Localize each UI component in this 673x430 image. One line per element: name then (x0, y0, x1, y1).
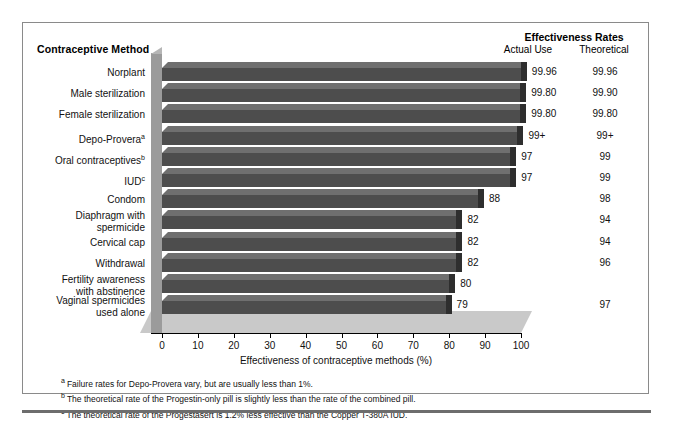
bar-chart-plot: Norplant99.9699.96Male sterilization99.8… (23, 23, 650, 395)
row-label: Condom (23, 194, 145, 206)
bar (162, 195, 478, 208)
bar-row: Diaphragm withspermicide8294 (23, 211, 650, 233)
bar-side-face (449, 274, 455, 293)
x-axis-tick (270, 333, 271, 338)
footnote: aFailure rates for Depo-Provera vary, bu… (61, 375, 621, 390)
bar-side-face (456, 253, 462, 272)
x-axis-tick (413, 333, 414, 338)
value-actual-use: 97 (521, 151, 567, 162)
footnotes: aFailure rates for Depo-Provera vary, bu… (61, 375, 621, 421)
x-axis-tick-label: 100 (506, 340, 536, 351)
value-actual-use: 97 (521, 172, 567, 183)
footnote: bThe theoretical rate of the Progestin-o… (61, 390, 621, 405)
bar-side-face (510, 147, 516, 166)
bar-side-face (520, 104, 526, 123)
bar-side-face (521, 62, 527, 81)
x-axis-tick (342, 333, 343, 338)
row-label: Diaphragm withspermicide (23, 210, 145, 233)
bar (162, 89, 520, 102)
value-actual-use: 99.80 (531, 87, 577, 98)
bar-row: Fertility awarenesswith abstinence80 (23, 275, 650, 297)
value-actual-use: 99.80 (531, 108, 577, 119)
bar-top-face (162, 253, 456, 259)
row-label: Oral contraceptivesb (23, 152, 145, 167)
bar-row: Condom8898 (23, 190, 650, 212)
x-axis-tick-label: 70 (398, 340, 428, 351)
row-label: Male sterilization (23, 88, 145, 100)
bar-side-face (478, 189, 484, 208)
value-actual-use: 82 (467, 214, 513, 225)
bar-top-face (162, 232, 456, 238)
x-axis-tick-label: 40 (291, 340, 321, 351)
bar-top-face (162, 210, 456, 216)
x-axis-tick-label: 80 (434, 340, 464, 351)
bar-row: Withdrawal8296 (23, 254, 650, 276)
x-axis-tick-label: 0 (147, 340, 177, 351)
row-label: Vaginal spermicidesused alone (23, 295, 145, 318)
row-label: Depo-Proveraa (23, 131, 145, 146)
value-actual-use: 88 (489, 193, 535, 204)
x-axis-tick (449, 333, 450, 338)
chart-left-wall-top (151, 47, 162, 54)
x-axis-line (151, 333, 521, 334)
bar (162, 259, 456, 272)
x-axis-tick (162, 333, 163, 338)
value-actual-use: 99+ (528, 130, 574, 141)
value-theoretical: 99+ (580, 130, 630, 141)
bar-row: Cervical cap8294 (23, 233, 650, 255)
value-theoretical: 98 (580, 193, 630, 204)
bar (162, 68, 521, 81)
bar-side-face (456, 210, 462, 229)
bar-top-face (162, 189, 478, 195)
x-axis-tick (377, 333, 378, 338)
x-axis-tick (306, 333, 307, 338)
value-actual-use: 79 (457, 299, 503, 310)
footnote: cThe theoretical rate of the Progestaser… (61, 406, 621, 421)
value-theoretical: 94 (580, 214, 630, 225)
bar-top-face (162, 104, 520, 110)
x-axis-tick-label: 60 (362, 340, 392, 351)
bar-side-face (520, 83, 526, 102)
value-theoretical: 97 (580, 299, 630, 310)
value-theoretical: 99.96 (580, 66, 630, 77)
bar-top-face (162, 126, 517, 132)
bar (162, 216, 456, 229)
value-theoretical: 94 (580, 236, 630, 247)
bar-top-face (162, 83, 520, 89)
bar-side-face (456, 232, 462, 251)
x-axis-tick (485, 333, 486, 338)
bar-side-face (510, 168, 516, 187)
bar-side-face (517, 126, 523, 145)
value-actual-use: 99.96 (532, 66, 578, 77)
value-theoretical: 99.90 (580, 87, 630, 98)
bar (162, 238, 456, 251)
value-actual-use: 82 (467, 257, 513, 268)
value-theoretical: 99 (580, 172, 630, 183)
bar-row: Depo-Proveraa99+99+ (23, 127, 650, 149)
bar-row: Vaginal spermicidesused alone7997 (23, 296, 650, 318)
row-label: Cervical cap (23, 237, 145, 249)
x-axis-tick-label: 50 (327, 340, 357, 351)
bar (162, 153, 510, 166)
bar-side-face (446, 295, 452, 314)
value-actual-use: 82 (467, 236, 513, 247)
bar-row: Female sterilization99.8099.80 (23, 105, 650, 127)
x-axis-tick (234, 333, 235, 338)
bar-row: Norplant99.9699.96 (23, 63, 650, 85)
x-axis-title: Effectiveness of contraceptive methods (… (151, 355, 521, 366)
bar (162, 280, 449, 293)
value-actual-use: 80 (460, 278, 506, 289)
x-axis-tick (521, 333, 522, 338)
x-axis-tick-label: 10 (183, 340, 213, 351)
bottom-divider-rule (22, 410, 651, 413)
row-label: Withdrawal (23, 258, 145, 270)
bar-row: Oral contraceptivesb9799 (23, 148, 650, 170)
bar (162, 110, 520, 123)
bar-top-face (162, 147, 510, 153)
row-label: IUDc (23, 173, 145, 188)
bar-top-face (162, 62, 521, 68)
bar-top-face (162, 168, 510, 174)
row-label: Female sterilization (23, 109, 145, 121)
figure-container: Contraceptive Method Effectiveness Rates… (22, 22, 649, 394)
x-axis-tick-label: 30 (255, 340, 285, 351)
